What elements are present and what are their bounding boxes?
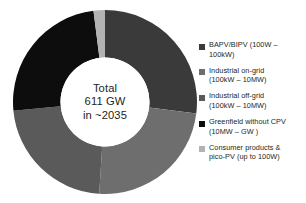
- donut-chart: Total 611 GW in ~2035: [10, 6, 200, 198]
- legend-item-label-line1: Consumer products &: [209, 143, 281, 152]
- legend-item-label-line1: BAPV/BIPV (100W –: [209, 40, 278, 49]
- legend-item-label-line2: (100kW – 10MW): [209, 101, 266, 111]
- legend-swatch-industrial-on-grid: [199, 69, 205, 75]
- pv-market-segments-donut-chart-figure: Total 611 GW in ~2035 BAPV/BIPV (100W –1…: [0, 0, 306, 203]
- legend-item[interactable]: BAPV/BIPV (100W –100kW): [199, 40, 304, 59]
- legend-item-label-line2: pico-PV (up to 100W): [209, 152, 281, 162]
- legend-item[interactable]: Industrial off-grid(100kW – 10MW): [199, 91, 304, 110]
- chart-legend: BAPV/BIPV (100W –100kW)Industrial on-gri…: [199, 40, 304, 168]
- legend-item-label: Industrial on-grid(100kW – 10MW): [209, 66, 266, 85]
- legend-swatch-greenfield: [199, 121, 205, 127]
- legend-swatch-bapv-bipv: [199, 44, 205, 50]
- donut-center-hole: [61, 58, 150, 147]
- legend-item-label-line1: Greenfield without CPV: [209, 117, 286, 126]
- legend-item-label: Consumer products &pico-PV (up to 100W): [209, 143, 281, 162]
- legend-item-label: Industrial off-grid(100kW – 10MW): [209, 91, 266, 110]
- legend-item-label-line2: 100kW): [209, 50, 278, 60]
- legend-item-label-line1: Industrial off-grid: [209, 91, 264, 100]
- legend-item[interactable]: Greenfield without CPV(10MW – GW ): [199, 117, 304, 136]
- legend-item-label-line2: (10MW – GW ): [209, 127, 286, 137]
- legend-item-label: Greenfield without CPV(10MW – GW ): [209, 117, 286, 136]
- legend-swatch-industrial-off-grid: [199, 95, 205, 101]
- legend-swatch-consumer-pico-pv: [199, 146, 205, 152]
- legend-item-label-line1: Industrial on-grid: [209, 66, 264, 75]
- donut-chart-svg: [10, 6, 200, 198]
- legend-item-label: BAPV/BIPV (100W –100kW): [209, 40, 278, 59]
- legend-item[interactable]: Industrial on-grid(100kW – 10MW): [199, 66, 304, 85]
- legend-item[interactable]: Consumer products &pico-PV (up to 100W): [199, 143, 304, 162]
- legend-item-label-line2: (100kW – 10MW): [209, 75, 266, 85]
